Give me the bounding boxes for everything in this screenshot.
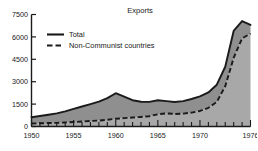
y-tick-label: 3000 [12, 77, 28, 86]
legend-label: Total [69, 30, 85, 39]
chart-title: Exports [127, 6, 153, 15]
x-tick-label: 1955 [66, 131, 82, 140]
x-tick-label: 1976 [243, 131, 258, 140]
y-tick-label: 1500 [12, 100, 28, 109]
y-tick-label: 4500 [12, 55, 28, 64]
x-tick-label: 1960 [108, 131, 124, 140]
x-tick-label: 1965 [150, 131, 166, 140]
x-tick-label: 1950 [24, 131, 40, 140]
y-tick-label: 6000 [12, 33, 28, 42]
y-tick-label: 7500 [12, 10, 28, 19]
x-tick-label: 1970 [192, 131, 208, 140]
chart-canvas: 0150030004500600075001950195519601965197… [0, 0, 257, 151]
legend-label: Non-Communist countries [69, 41, 155, 50]
exports-chart: 0150030004500600075001950195519601965197… [0, 0, 257, 151]
y-tick-label: 0 [24, 122, 28, 131]
